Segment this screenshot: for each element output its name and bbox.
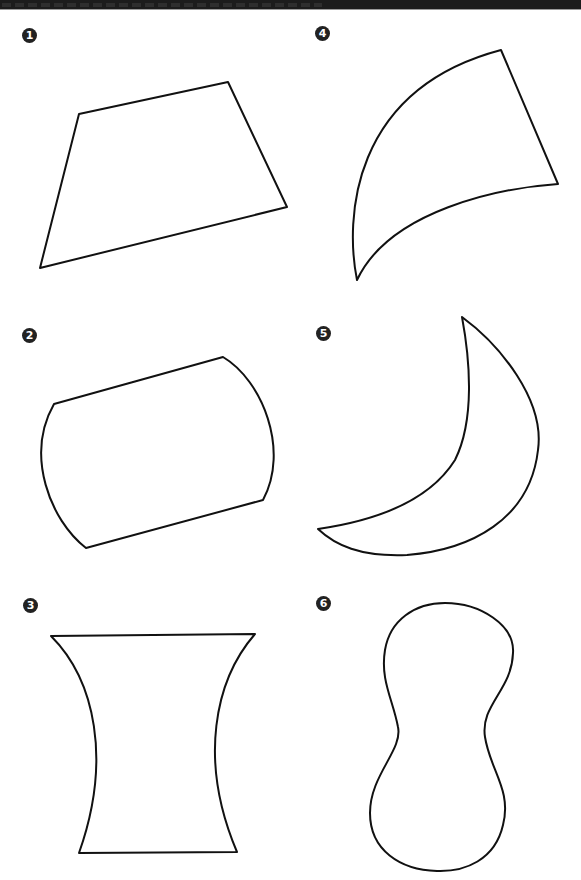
- shape-6-peanut: [370, 603, 513, 871]
- shape-4-curved-triangle: [353, 50, 558, 280]
- figure-1-number-marker: 1: [22, 28, 37, 43]
- figure-2-number-marker: 2: [22, 328, 37, 343]
- shape-3-concave-trapezoid: [51, 634, 255, 853]
- shape-1-quadrilateral: [40, 82, 287, 268]
- figure-6-number-marker: 6: [316, 596, 331, 611]
- shape-2-curved-parallelogram: [41, 357, 273, 548]
- figure-4-number-marker: 4: [315, 26, 330, 41]
- shape-5-crescent: [318, 317, 539, 555]
- figure-3-number-marker: 3: [23, 598, 38, 613]
- figure-5-number-marker: 5: [316, 326, 331, 341]
- shapes-canvas: [0, 0, 581, 880]
